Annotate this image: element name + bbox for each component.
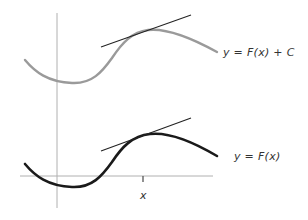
curve-label-base: y = F(x) — [234, 150, 281, 163]
curve-base — [25, 134, 217, 187]
x-axis-label: x — [140, 189, 147, 202]
tangent-line-shifted — [101, 15, 191, 47]
curve-shifted — [25, 30, 217, 83]
curve-label-shifted: y = F(x) + C — [223, 46, 295, 59]
tangent-line-base — [101, 118, 191, 151]
antiderivative-diagram — [0, 0, 308, 220]
